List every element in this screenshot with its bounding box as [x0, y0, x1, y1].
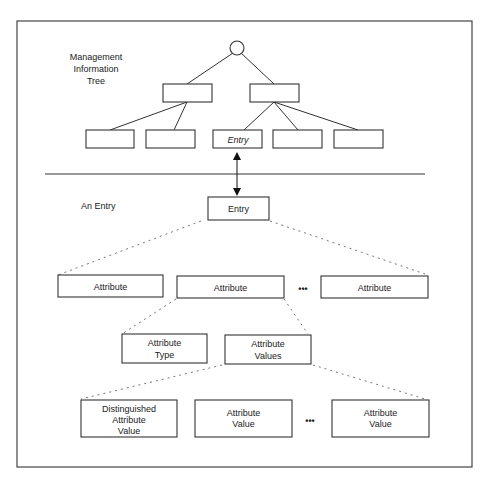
value-label: Value	[369, 419, 391, 429]
value-label: Value	[118, 426, 140, 436]
attribute-values-label: Attribute	[251, 339, 285, 349]
tree-entry-node-label: Entry	[227, 135, 249, 145]
value-label: Distinguished	[102, 404, 156, 414]
attribute-type-label: Attribute	[148, 338, 182, 348]
mit-diagram: Management Information Tree Entry An Ent…	[0, 0, 489, 480]
tree-node	[273, 130, 322, 148]
tree-node	[334, 130, 383, 148]
attribute-label: Attribute	[214, 283, 248, 293]
value-label: Attribute	[227, 408, 261, 418]
attribute-label: Attribute	[358, 283, 392, 293]
tree-root-node	[230, 41, 244, 55]
tree-node	[250, 84, 299, 102]
attribute-ellipsis: •••	[298, 284, 307, 294]
value-label: Value	[232, 419, 254, 429]
entry-box-label: Entry	[228, 204, 250, 214]
attribute-values-label: Values	[255, 351, 282, 361]
tree-node	[86, 130, 134, 148]
attribute-label: Attribute	[94, 282, 128, 292]
tree-node	[146, 130, 195, 148]
tree-label-line-1: Management	[70, 52, 123, 62]
attribute-type-label: Type	[155, 350, 175, 360]
value-ellipsis: •••	[305, 416, 314, 426]
tree-label-line-2: Information	[73, 64, 118, 74]
tree-label-line-3: Tree	[87, 76, 105, 86]
entry-section-label: An Entry	[81, 201, 116, 211]
value-label: Attribute	[112, 415, 146, 425]
tree-edges	[110, 53, 358, 130]
value-label: Attribute	[364, 408, 398, 418]
tree-node	[163, 84, 212, 102]
